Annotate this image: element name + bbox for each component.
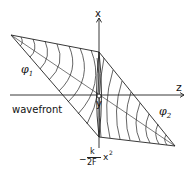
phi1-label: φ1	[21, 64, 33, 78]
wavefront-label: wavefront	[12, 105, 62, 115]
incident-wave-region	[11, 35, 99, 137]
y-axis-label: y	[96, 99, 102, 109]
z-axis-label: z	[176, 82, 182, 93]
phi2-label: φ2	[159, 106, 171, 120]
x-axis-label: x	[95, 9, 101, 19]
diagram-canvas	[0, 0, 191, 178]
lens-wavefront-diagram: x z y φ1 φ2 wavefront − k 2F x 2	[0, 0, 191, 178]
